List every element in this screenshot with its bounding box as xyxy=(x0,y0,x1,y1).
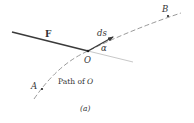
point-a-label: A xyxy=(30,81,37,91)
ds-label: ds xyxy=(97,28,107,38)
point-b-dot xyxy=(167,15,169,17)
work-diagram: F ds α O A B Path of O (a) xyxy=(0,0,194,123)
angle-label: α xyxy=(101,43,107,53)
figure-caption: (a) xyxy=(80,104,90,113)
point-b-label: B xyxy=(161,4,168,14)
force-extension-line xyxy=(88,51,133,62)
point-a-dot xyxy=(41,88,43,90)
path-label: Path of O xyxy=(58,77,93,86)
origin-label: O xyxy=(84,55,91,65)
point-o-dot xyxy=(87,50,90,53)
force-label: F xyxy=(45,29,52,39)
